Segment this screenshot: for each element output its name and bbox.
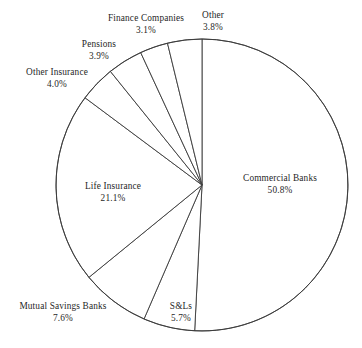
pie-slice-label-name: Life Insurance [85, 181, 141, 193]
pie-slice-label: Commercial Banks50.8% [243, 173, 317, 196]
pie-slice-label-percent: 7.6% [19, 313, 106, 325]
pie-slice-label: Other3.8% [202, 10, 224, 33]
pie-slice-label-percent: 4.0% [26, 79, 88, 91]
pie-slice-label: Finance Companies3.1% [108, 13, 184, 36]
pie-slice-label: Pensions3.9% [82, 39, 116, 62]
pie-slice-label-percent: 3.8% [202, 22, 224, 34]
pie-slice-label: Life Insurance21.1% [85, 181, 141, 204]
pie-slice-label-percent: 21.1% [85, 193, 141, 205]
pie-slice-label-name: Other [202, 10, 224, 22]
pie-slice-label: Other Insurance4.0% [26, 67, 88, 90]
pie-slice-label-name: Other Insurance [26, 67, 88, 79]
pie-slice-label-percent: 5.7% [170, 313, 192, 325]
pie-slice-label-name: Commercial Banks [243, 173, 317, 185]
pie-slice-label-percent: 3.1% [108, 25, 184, 37]
pie-chart: Commercial Banks50.8%S&Ls5.7%Mutual Savi… [0, 0, 362, 348]
pie-slice-label-name: Finance Companies [108, 13, 184, 25]
pie-slice-label-name: Mutual Savings Banks [19, 301, 106, 313]
pie-slice-label: Mutual Savings Banks7.6% [19, 301, 106, 324]
pie-slice-label-percent: 50.8% [243, 185, 317, 197]
pie-slice-label-percent: 3.9% [82, 51, 116, 63]
pie-slice-label-name: Pensions [82, 39, 116, 51]
pie-slice-label-name: S&Ls [170, 301, 192, 313]
pie-slice-label: S&Ls5.7% [170, 301, 192, 324]
